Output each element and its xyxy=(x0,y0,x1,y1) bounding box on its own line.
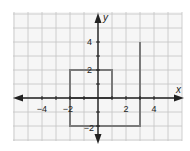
y-tick-label: 2 xyxy=(87,65,92,75)
x-tick-label: −2 xyxy=(63,104,73,114)
x-tick-label: 4 xyxy=(151,104,156,114)
coordinate-graph: x y −4 −2 2 4 4 2 −2 xyxy=(0,0,190,151)
y-tick-label: 4 xyxy=(87,37,92,47)
y-axis-label: y xyxy=(102,12,109,23)
x-tick-label: −4 xyxy=(37,104,47,114)
x-tick-label: 2 xyxy=(123,104,128,114)
x-axis-label: x xyxy=(175,84,182,95)
y-tick-label: −2 xyxy=(84,123,94,133)
graph-svg: x y −4 −2 2 4 4 2 −2 xyxy=(0,0,190,151)
